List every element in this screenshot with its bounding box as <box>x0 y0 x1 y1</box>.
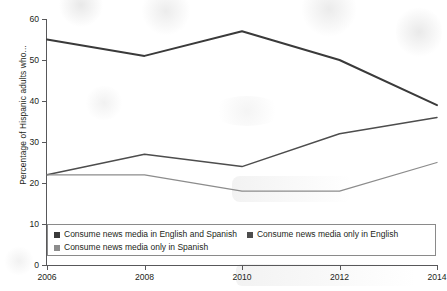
y-tick-label: 0 <box>34 260 39 270</box>
y-tick-label: 30 <box>29 137 39 147</box>
legend-row: Consume news media only in Spanish <box>54 241 435 254</box>
legend-row: Consume news media in English and Spanis… <box>54 228 435 241</box>
legend-swatch-icon <box>54 232 60 238</box>
series-line <box>47 31 437 105</box>
legend-label: Consume news media only in English <box>257 230 398 239</box>
legend-label: Consume news media only in Spanish <box>64 243 208 252</box>
x-tick-mark <box>437 265 438 270</box>
y-tick-label: 50 <box>29 55 39 65</box>
x-tick-label: 2014 <box>427 272 446 282</box>
x-tick-label: 2012 <box>330 272 349 282</box>
y-tick-label: 10 <box>29 219 39 229</box>
x-tick-label: 2008 <box>135 272 154 282</box>
y-tick-label: 60 <box>29 14 39 24</box>
x-tick-label: 2010 <box>232 272 251 282</box>
series-line <box>47 117 437 174</box>
scan-artifact <box>4 246 34 276</box>
legend-item-1[interactable]: Consume news media only in English <box>247 230 398 239</box>
legend-label: Consume news media in English and Spanis… <box>64 230 237 239</box>
legend-swatch-icon <box>247 232 253 238</box>
x-tick-mark <box>242 265 243 270</box>
y-tick-label: 40 <box>29 96 39 106</box>
x-tick-mark <box>145 265 146 270</box>
x-tick-mark <box>47 265 48 270</box>
y-tick-label: 20 <box>29 178 39 188</box>
legend-item-2[interactable]: Consume news media only in Spanish <box>54 243 208 252</box>
y-axis-title: Percentage of Hispanic adults who... <box>18 0 28 230</box>
x-tick-label: 2006 <box>37 272 56 282</box>
legend-swatch-icon <box>54 245 60 251</box>
legend-item-0[interactable]: Consume news media in English and Spanis… <box>54 230 237 239</box>
x-tick-mark <box>340 265 341 270</box>
chart-legend: Consume news media in English and Spanis… <box>47 224 436 256</box>
scan-artifact <box>236 264 416 286</box>
